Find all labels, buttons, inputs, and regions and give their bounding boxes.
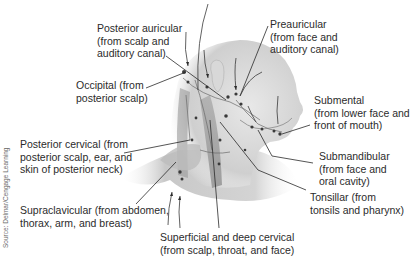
source-credit: Source: Delmar/Cengage Learning xyxy=(2,148,9,248)
label-line: posterior scalp) xyxy=(76,92,148,105)
label-line: Submandibular xyxy=(319,150,390,163)
label-line: oral cavity) xyxy=(319,175,390,188)
label-submandibular: Submandibular (from face and oral cavity… xyxy=(319,150,390,188)
label-line: Submental xyxy=(314,94,410,107)
label-line: Posterior auricular xyxy=(97,22,182,35)
label-occipital: Occipital (from posterior scalp) xyxy=(76,79,148,104)
label-supraclavicular: Supraclavicular (from abdomen, thorax, a… xyxy=(20,204,169,229)
label-line: (from face and xyxy=(319,163,390,176)
label-line: Supraclavicular (from abdomen, xyxy=(20,204,169,217)
label-line: auditory canal) xyxy=(270,43,339,56)
label-line: (from lower face and xyxy=(314,107,410,120)
label-line: (from scalp and xyxy=(97,35,182,48)
label-posterior-cervical: Posterior cervical (from posterior scalp… xyxy=(20,138,132,176)
label-posterior-auricular: Posterior auricular (from scalp and audi… xyxy=(97,22,182,60)
label-line: Occipital (from xyxy=(76,79,148,92)
label-tonsillar: Tonsillar (from tonsils and pharynx) xyxy=(310,191,404,216)
label-line: posterior scalp, ear, and xyxy=(20,151,132,164)
label-line: tonsils and pharynx) xyxy=(310,204,404,217)
label-line: (from face and xyxy=(270,31,339,44)
label-superficial-deep-cervical: Superficial and deep cervical (from scal… xyxy=(160,231,294,256)
label-line: Superficial and deep cervical xyxy=(160,231,294,244)
label-line: skin of posterior neck) xyxy=(20,163,132,176)
label-preauricular: Preauricular (from face and auditory can… xyxy=(270,18,339,56)
label-line: Preauricular xyxy=(270,18,339,31)
label-line: auditory canal) xyxy=(97,47,182,60)
label-line: (from scalp, throat, and face) xyxy=(160,244,294,257)
label-line: Posterior cervical (from xyxy=(20,138,132,151)
label-submental: Submental (from lower face and front of … xyxy=(314,94,410,132)
label-line: thorax, arm, and breast) xyxy=(20,217,169,230)
label-line: Tonsillar (from xyxy=(310,191,404,204)
label-line: front of mouth) xyxy=(314,119,410,132)
